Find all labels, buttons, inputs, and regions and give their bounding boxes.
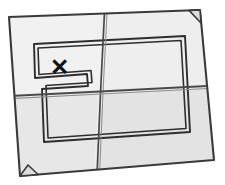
map-drawing: ✕ [0, 0, 225, 185]
map-illustration: ✕ [0, 0, 225, 185]
x-marks-the-spot-marker: ✕ [50, 54, 69, 80]
top-right-panel [102, 10, 206, 92]
